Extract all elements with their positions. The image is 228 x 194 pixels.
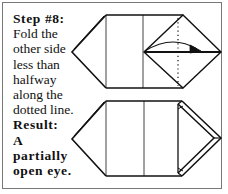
diagram-before-fold (72, 15, 221, 88)
origami-step-card: Step #8: Fold the other side less than h… (0, 0, 228, 194)
diagram-after-fold (72, 101, 221, 176)
fold-diagrams (0, 0, 228, 194)
